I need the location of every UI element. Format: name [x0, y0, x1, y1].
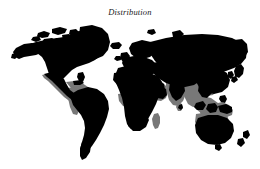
page-title: Distribution: [0, 7, 260, 17]
world-map: [0, 18, 260, 169]
distribution-map-figure: Distribution: [0, 0, 260, 169]
